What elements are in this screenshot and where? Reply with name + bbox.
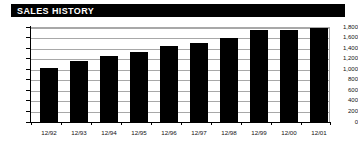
x-axis-label: 12/94 bbox=[101, 130, 116, 136]
bar bbox=[70, 61, 88, 122]
bar bbox=[40, 68, 58, 122]
plot-area bbox=[31, 27, 330, 122]
x-axis-tick bbox=[61, 122, 62, 125]
y-axis-label: 0 bbox=[334, 119, 358, 125]
x-axis-label: 12/98 bbox=[221, 130, 236, 136]
y-axis-tick bbox=[26, 58, 30, 59]
y-axis-tick bbox=[26, 37, 30, 38]
y-axis-tick bbox=[26, 27, 30, 28]
x-axis-label: 12/99 bbox=[251, 130, 266, 136]
y-axis-label: 200 bbox=[334, 108, 358, 114]
y-axis-tick bbox=[26, 111, 30, 112]
x-axis-tick bbox=[211, 122, 212, 125]
y-axis-tick bbox=[26, 79, 30, 80]
x-axis-tick bbox=[301, 122, 302, 125]
x-axis-label: 12/97 bbox=[191, 130, 206, 136]
x-axis-tick bbox=[91, 122, 92, 125]
x-axis-tick bbox=[241, 122, 242, 125]
y-axis-label: 1,600 bbox=[334, 34, 358, 40]
x-axis-tick bbox=[31, 122, 32, 125]
page-title: SALES HISTORY bbox=[17, 6, 94, 15]
y-axis-tick bbox=[26, 100, 30, 101]
y-axis-tick bbox=[26, 122, 30, 123]
x-axis-label: 12/01 bbox=[311, 130, 326, 136]
y-axis-label: 800 bbox=[334, 76, 358, 82]
x-axis-label: 12/92 bbox=[41, 130, 56, 136]
bar bbox=[160, 46, 178, 122]
y-axis-line bbox=[30, 26, 31, 123]
y-axis-label: 1,400 bbox=[334, 45, 358, 51]
bar bbox=[280, 30, 298, 122]
y-axis-label: 1,000 bbox=[334, 66, 358, 72]
x-axis-label: 12/00 bbox=[281, 130, 296, 136]
chart-title-bar: SALES HISTORY bbox=[11, 4, 345, 17]
bar bbox=[220, 38, 238, 122]
x-axis-tick bbox=[330, 122, 331, 125]
y-axis-label: 600 bbox=[334, 87, 358, 93]
bar bbox=[130, 52, 148, 123]
x-axis-tick bbox=[271, 122, 272, 125]
x-axis-tick bbox=[151, 122, 152, 125]
y-axis-label: 1,800 bbox=[334, 24, 358, 30]
sales-history-chart-panel: SALES HISTORY 1,800 1,600 1,400 1,200 1,… bbox=[0, 0, 358, 148]
bar bbox=[190, 43, 208, 122]
y-axis-tick bbox=[26, 90, 30, 91]
bar bbox=[100, 56, 118, 122]
y-axis-tick bbox=[26, 48, 30, 49]
bar bbox=[250, 30, 268, 122]
x-axis-tick bbox=[181, 122, 182, 125]
bar bbox=[310, 28, 328, 122]
y-axis-tick bbox=[26, 69, 30, 70]
x-axis-label: 12/95 bbox=[131, 130, 146, 136]
x-axis-tick bbox=[121, 122, 122, 125]
x-axis-label: 12/96 bbox=[161, 130, 176, 136]
x-axis-label: 12/93 bbox=[71, 130, 86, 136]
y-axis-label: 400 bbox=[334, 97, 358, 103]
y-axis-label: 1,200 bbox=[334, 55, 358, 61]
